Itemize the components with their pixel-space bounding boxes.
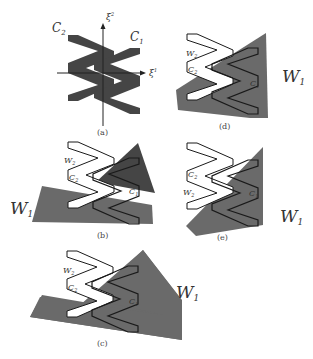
label-w1: W1 (176, 282, 199, 303)
caption-a: (a) (97, 128, 108, 137)
figure-canvas: ξ1 ξ2 C2 C1 (a) W2 C2 C1 W1 (d) W2 C2 C1… (0, 0, 313, 359)
caption-c: (c) (97, 339, 108, 348)
panel-d: W2 C2 C1 W1 (d) (176, 33, 305, 131)
panel-a: ξ1 ξ2 C2 C1 (a) (52, 11, 157, 137)
label-w2: W2 (64, 156, 75, 166)
label-w2: W2 (186, 49, 197, 59)
axis-label-xi1: ξ1 (149, 67, 157, 78)
label-c1: C1 (130, 30, 144, 46)
panel-e: C2 W2 C1 W1 (e) (183, 143, 303, 242)
label-w2: W2 (63, 266, 74, 276)
label-c2: C2 (52, 21, 66, 37)
caption-d: (d) (219, 122, 230, 131)
label-w1: W1 (10, 198, 33, 219)
panel-b: W2 C2 C1 W1 (b) (10, 142, 155, 240)
caption-e: (e) (217, 233, 228, 242)
label-w2: W2 (183, 188, 194, 198)
label-w1: W1 (280, 206, 303, 227)
axis-label-xi2: ξ2 (106, 11, 114, 22)
label-w1: W1 (282, 66, 305, 87)
panel-c: W2 C2 C1 W1 (c) (30, 250, 199, 348)
caption-b: (b) (97, 231, 108, 240)
